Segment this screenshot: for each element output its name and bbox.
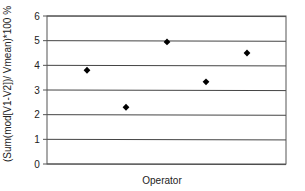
gridline: [47, 90, 286, 91]
y-tick-label: 2: [34, 109, 40, 120]
y-tick-label: 4: [34, 60, 40, 71]
y-tick-label: 0: [34, 159, 40, 170]
scatter-chart: 0123456 Operator (Sum(mod[V1-V2])/ Vmean…: [0, 0, 305, 191]
y-tick-label: 5: [34, 35, 40, 46]
gridline: [47, 115, 286, 116]
y-tick-label: 1: [34, 134, 40, 145]
chart-background: [0, 0, 305, 191]
y-tick-label: 6: [34, 11, 40, 22]
y-axis-title: (Sum(mod[V1-V2])/ Vmean)*100 %: [2, 6, 13, 162]
gridline: [47, 65, 286, 66]
gridline: [47, 139, 286, 140]
y-tick-label: 3: [34, 85, 40, 96]
x-axis-title: Operator: [142, 175, 182, 186]
